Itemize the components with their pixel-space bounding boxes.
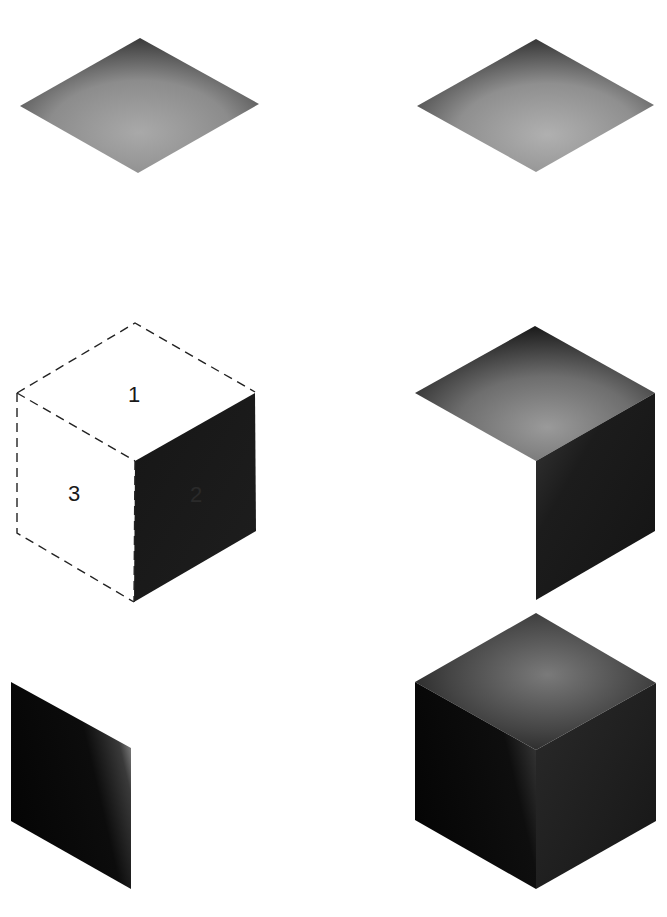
panel-left-face bbox=[11, 682, 131, 889]
panel-numbered-cube: 1 2 3 bbox=[17, 323, 256, 602]
top-face-rhombus bbox=[20, 38, 259, 173]
cube-shading-diagram: 1 2 3 bbox=[0, 0, 667, 917]
face-label-3: 3 bbox=[68, 481, 80, 506]
panel-top-and-right bbox=[415, 326, 655, 600]
face-label-2: 2 bbox=[190, 482, 202, 507]
left-face bbox=[11, 682, 131, 889]
top-face-rhombus bbox=[417, 39, 654, 172]
face-label-1: 1 bbox=[128, 382, 140, 407]
panel-top-face-2 bbox=[417, 39, 654, 172]
panel-top-face-1 bbox=[20, 38, 259, 173]
panel-full-cube bbox=[415, 613, 656, 889]
